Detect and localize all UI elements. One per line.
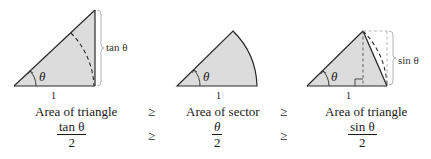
theta-label-1: θ bbox=[39, 69, 45, 85]
area-sector-label: Area of sector bbox=[186, 104, 260, 120]
fraction-denominator: 2 bbox=[57, 135, 86, 150]
geq-symbol-4: ≥ bbox=[280, 128, 287, 144]
area-triangle-small-label: Area of triangle bbox=[325, 104, 407, 120]
geq-symbol-2: ≥ bbox=[280, 104, 287, 120]
sin-theta-label: sin θ bbox=[398, 54, 419, 66]
fraction-denominator: 2 bbox=[212, 135, 222, 150]
fraction-numerator: sin θ bbox=[348, 120, 377, 135]
small-triangle-figure bbox=[307, 31, 396, 86]
sin-over-2-fraction: sin θ 2 bbox=[348, 120, 377, 150]
fraction-denominator: 2 bbox=[348, 135, 377, 150]
tan-theta-label: tan θ bbox=[106, 41, 127, 53]
theta-label-3: θ bbox=[331, 69, 337, 85]
base-label-3: 1 bbox=[346, 90, 351, 101]
fraction-numerator: θ bbox=[212, 120, 222, 135]
large-triangle-figure bbox=[14, 10, 104, 86]
geq-symbol-1: ≥ bbox=[148, 104, 155, 120]
area-triangle-large-label: Area of triangle bbox=[35, 104, 117, 120]
geq-symbol-3: ≥ bbox=[148, 128, 155, 144]
fraction-numerator: tan θ bbox=[57, 120, 86, 135]
base-label-1: 1 bbox=[51, 90, 56, 101]
theta-over-2-fraction: θ 2 bbox=[212, 120, 222, 150]
tan-over-2-fraction: tan θ 2 bbox=[57, 120, 86, 150]
theta-label-2: θ bbox=[203, 69, 209, 85]
sector-figure bbox=[177, 31, 257, 86]
base-label-2: 1 bbox=[216, 90, 221, 101]
